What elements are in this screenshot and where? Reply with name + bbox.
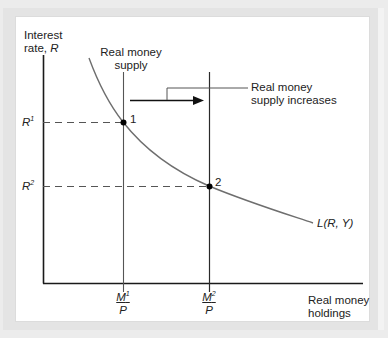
m2-sup: 2	[212, 290, 216, 297]
demand-curve-label: L(R, Y)	[317, 217, 353, 230]
r2-label: R2	[22, 180, 34, 193]
y-axis-label: Interest rate, R	[24, 29, 62, 55]
point-2-label: 2	[215, 176, 221, 189]
money-supply-label: Real money supply	[96, 46, 166, 72]
r1-label: R1	[22, 116, 34, 129]
m1-over-p-label: M1 P	[112, 291, 134, 317]
y-axis-label-line1: Interest	[24, 29, 62, 42]
money-supply-label-line1: Real money	[96, 46, 166, 59]
y-axis-label-line2: rate, R	[24, 42, 62, 55]
m1-denominator: P	[112, 304, 134, 317]
m1-sup: 1	[126, 290, 130, 297]
point-1-label: 1	[130, 113, 136, 126]
equilibrium-point-2	[207, 184, 213, 190]
m2-numerator: M2	[198, 291, 220, 304]
r1-sup: 1	[30, 115, 34, 122]
x-axis-label-line1: Real money	[308, 294, 369, 307]
supply-increase-label: Real money supply increases	[251, 81, 337, 107]
shift-arrow-head	[193, 96, 204, 105]
shift-label-leader	[167, 88, 248, 100]
r2-sup: 2	[30, 179, 34, 186]
equilibrium-point-1	[121, 120, 127, 126]
x-axis-label-line2: holdings	[308, 307, 369, 320]
m2-var: M	[202, 291, 212, 303]
supply-increase-label-line1: Real money	[251, 81, 337, 94]
x-axis-label: Real money holdings	[308, 294, 369, 320]
m1-var: M	[116, 291, 126, 303]
y-axis-label-text: rate,	[24, 42, 50, 54]
money-supply-label-line2: supply	[96, 59, 166, 72]
supply-increase-label-line2: supply increases	[251, 94, 337, 107]
m2-denominator: P	[198, 304, 220, 317]
y-axis-variable: R	[50, 42, 58, 54]
m1-numerator: M1	[112, 291, 134, 304]
m2-over-p-label: M2 P	[198, 291, 220, 317]
